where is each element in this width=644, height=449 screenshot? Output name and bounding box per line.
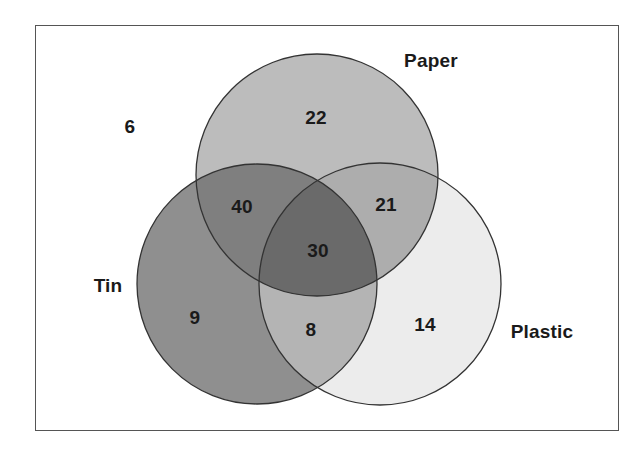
region-tin-only: 9 bbox=[190, 307, 201, 329]
region-plastic-only: 14 bbox=[414, 314, 436, 336]
region-all-three: 30 bbox=[307, 240, 329, 262]
label-plastic: Plastic bbox=[511, 321, 574, 343]
region-paper-plastic: 21 bbox=[375, 194, 397, 216]
label-paper: Paper bbox=[404, 50, 458, 72]
region-outside: 6 bbox=[125, 116, 136, 138]
region-paper-only: 22 bbox=[305, 107, 327, 129]
venn-diagram bbox=[0, 0, 644, 449]
label-tin: Tin bbox=[94, 275, 123, 297]
region-paper-tin: 40 bbox=[231, 196, 253, 218]
region-tin-plastic: 8 bbox=[306, 319, 317, 341]
